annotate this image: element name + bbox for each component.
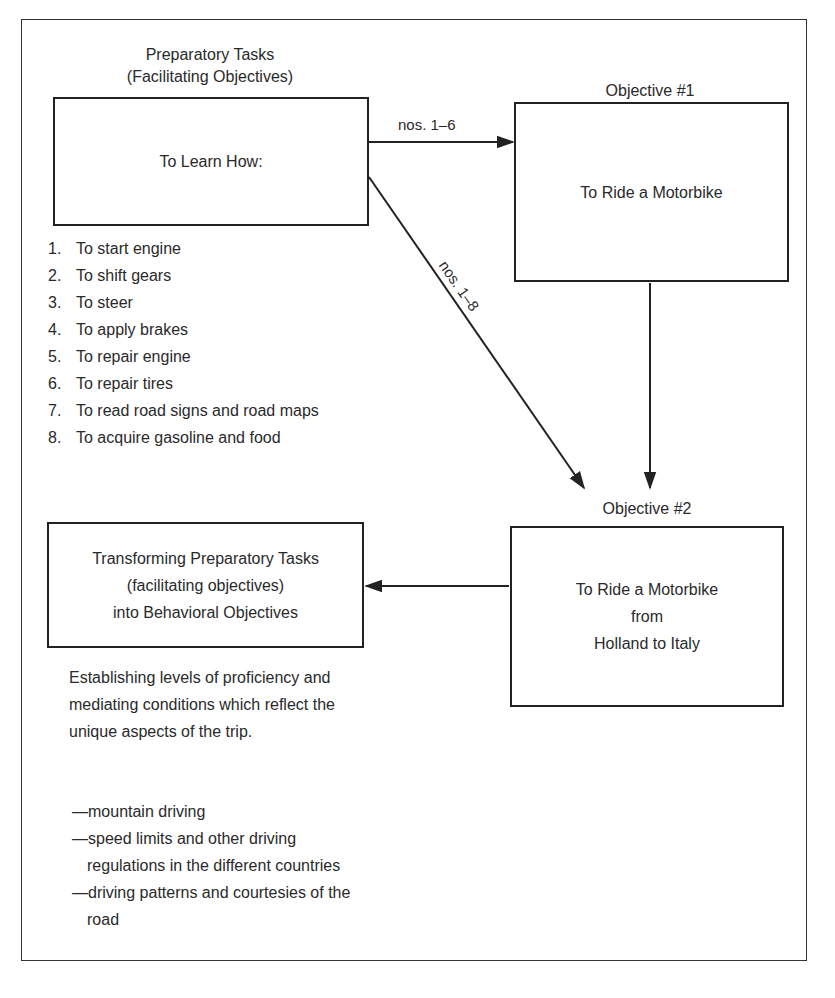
figure-caption-truncated bbox=[0, 986, 835, 998]
edge-label-nos-1-6: nos. 1–6 bbox=[398, 114, 456, 136]
arrow-prep-to-objective2 bbox=[369, 177, 584, 488]
connector-arrows bbox=[0, 0, 835, 998]
